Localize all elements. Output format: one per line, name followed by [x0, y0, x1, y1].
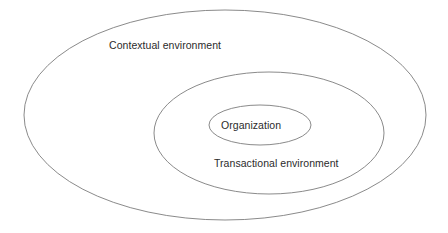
concentric-environment-diagram: Contextual environment Organization Tran… — [0, 0, 448, 233]
diagram-canvas — [0, 0, 448, 233]
label-organization: Organization — [221, 119, 281, 131]
label-contextual-environment: Contextual environment — [109, 39, 221, 51]
label-transactional-environment: Transactional environment — [214, 157, 339, 169]
